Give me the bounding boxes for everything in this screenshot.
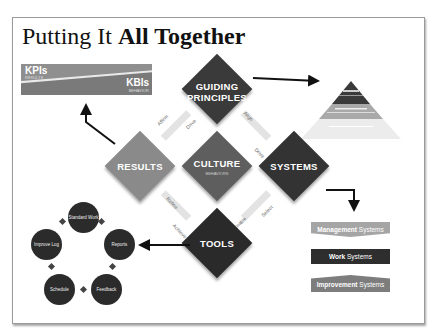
systems-label: SYSTEMS [254, 161, 334, 172]
cycle-reports: Reports [104, 229, 135, 260]
improvement-systems: Improvement Systems [311, 275, 390, 292]
pyramid [299, 81, 403, 139]
title-bold: All Together [118, 23, 245, 49]
culture-label: CULTURE [177, 158, 257, 169]
cycle-feedback: Feedback [91, 274, 122, 305]
kpi-kbi-bar: KPIs RESULTS KBIs BEHAVIOR [21, 64, 152, 95]
kbi-label: KBIs [126, 77, 149, 88]
slide-title: Putting It All Together [22, 23, 245, 50]
cycle-improve-log: Improve Log [31, 229, 62, 260]
kbi-sub: BEHAVIOR [129, 88, 149, 93]
tools-label: TOOLS [177, 238, 257, 249]
cycle-standard-work: Standard Work [68, 202, 99, 233]
results-label: RESULTS [100, 161, 180, 172]
cycle-schedule: Schedule [44, 274, 75, 305]
kpi-sub: RESULTS [25, 75, 43, 80]
title-regular: Putting It [22, 23, 118, 49]
guiding-principles-label: GUIDINGPRINCIPLES [177, 81, 257, 103]
culture-sub: BEHAVIORS [187, 171, 247, 176]
work-systems: Work Systems [311, 249, 390, 264]
